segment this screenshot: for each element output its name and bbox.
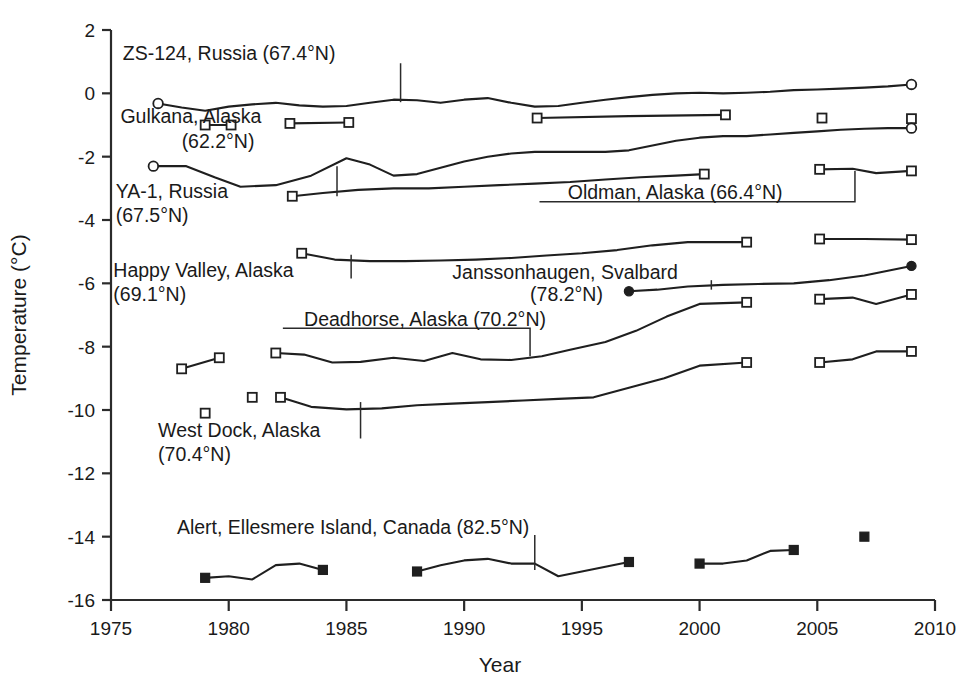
marker-filled-square [695,559,704,568]
series-line [820,239,912,240]
marker-open-square [285,119,294,128]
temperature-time-series-chart: 20-2-4-6-8-10-12-14-16 19751980198519901… [0,0,961,698]
marker-open-square [533,114,542,123]
marker-open-square [742,238,751,247]
marker-open-square [815,295,824,304]
y-axis-tick-label: -14 [68,527,96,548]
y-axis-tick-label: -6 [78,273,95,294]
marker-filled-square [789,545,798,554]
x-axis-tick-label: 2005 [796,618,838,639]
y-axis-tick-label: 2 [84,20,95,41]
marker-open-square [815,165,824,174]
marker-open-square [288,192,297,201]
marker-open-square [907,166,916,175]
marker-open-square [248,393,257,402]
marker-filled-circle [624,287,633,296]
x-axis-tick-label: 1990 [443,618,485,639]
y-axis-tick-label: -10 [68,400,95,421]
annotation-label-gulkana-1: Gulkana, Alaska [120,105,261,127]
marker-open-square [215,353,224,362]
marker-filled-square [413,567,422,576]
y-axis-tick-label: -2 [78,147,95,168]
marker-open-square [344,118,353,127]
chart-container: 20-2-4-6-8-10-12-14-16 19751980198519901… [0,0,961,698]
marker-open-square [742,298,751,307]
y-axis-title: Temperature (°C) [7,234,30,395]
x-axis-tick-label: 1995 [561,618,603,639]
marker-open-circle [149,161,159,171]
y-axis-tick-label: -4 [78,210,95,231]
annotation-label-ya1-2: (67.5°N) [116,204,189,226]
y-axis-tick-label: 0 [84,83,95,104]
y-axis-tick-label: -8 [78,337,95,358]
x-axis-title: Year [479,653,521,676]
series-line [290,122,349,123]
marker-filled-square [860,532,869,541]
annotation-label-westdock-2: (70.4°N) [158,443,231,465]
annotation-label-westdock-1: West Dock, Alaska [158,419,320,441]
marker-open-circle [907,123,917,133]
marker-open-square [276,393,285,402]
marker-filled-square [624,558,633,567]
marker-open-square [721,110,730,119]
marker-open-square [271,349,280,358]
marker-open-square [201,409,210,418]
marker-open-square [177,364,186,373]
x-axis-tick-label: 1975 [90,618,132,639]
marker-open-square [817,114,826,123]
marker-open-square [907,290,916,299]
x-axis-tick-label: 1985 [325,618,367,639]
x-axis-tick-label: 2000 [678,618,720,639]
annotation-label-jansson-1: Janssonhaugen, Svalbard [452,261,678,283]
x-axis-tick-label: 1980 [208,618,250,639]
y-axis-tick-label: -12 [68,463,95,484]
marker-open-square [815,358,824,367]
annotation-label-happy-2: (69.1°N) [113,283,186,305]
annotation-label-alert: Alert, Ellesmere Island, Canada (82.5°N) [177,516,529,538]
annotation-label-zs124: ZS-124, Russia (67.4°N) [123,42,336,64]
marker-open-square [700,170,709,179]
marker-open-square [907,235,916,244]
annotation-label-oldman: Oldman, Alaska (66.4°N) [568,181,783,203]
marker-open-square [297,249,306,258]
y-axis-tick-label: -16 [68,590,95,611]
annotation-label-ya1-1: YA-1, Russia [116,180,228,202]
annotation-label-jansson-2: (78.2°N) [530,283,603,305]
marker-open-square [815,235,824,244]
marker-filled-square [318,565,327,574]
annotation-label-happy-1: Happy Valley, Alaska [113,259,293,281]
marker-filled-square [201,573,210,582]
marker-filled-circle [907,261,916,270]
annotation-label-gulkana-2: (62.2°N) [182,130,255,152]
marker-open-square [742,358,751,367]
annotation-label-deadhorse: Deadhorse, Alaska (70.2°N) [304,308,546,330]
marker-open-square [907,347,916,356]
x-axis-tick-label: 2010 [914,618,956,639]
marker-open-circle [907,80,917,90]
marker-open-square [907,114,916,123]
